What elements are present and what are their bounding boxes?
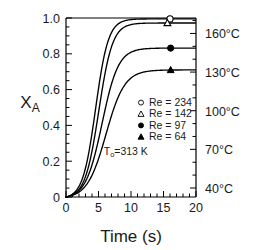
right-tick-label: 130°C [205,66,240,80]
legend-label-3: Re = 64 [149,130,186,142]
y-tick-label: 0.8 [43,47,60,61]
legend-marker-1 [138,111,144,116]
legend-label-1: Re = 142 [149,107,192,119]
figure: 00.20.40.60.81.040°C70°C100°C130°C160°C0… [0,0,273,250]
right-tick-label: 40°C [205,182,233,196]
x-tick-label: 10 [124,201,138,215]
legend-marker-0 [139,100,144,105]
y-tick-label: 0 [53,191,60,205]
y-tick-label: 1.0 [43,12,60,26]
legend-label-2: Re = 97 [149,119,186,131]
right-tick-label: 70°C [205,143,233,157]
x-tick-label: 5 [95,201,102,215]
legend-label-0: Re = 234 [149,96,192,108]
x-axis-label: Time (s) [100,227,162,246]
y-tick-label: 0.4 [43,119,60,133]
right-tick-label: 160°C [205,27,240,41]
legend-marker-3 [138,134,144,139]
x-tick-label: 20 [189,201,203,215]
y-tick-label: 0.6 [43,83,60,97]
chart-canvas: 00.20.40.60.81.040°C70°C100°C130°C160°C0… [0,0,273,250]
y-tick-label: 0.2 [43,155,60,169]
x-tick-label: 0 [63,201,70,215]
legend-marker-2 [139,123,144,128]
right-tick-label: 100°C [205,105,240,119]
annotation-inlet-temperature: To=313 K [104,145,148,160]
y-axis-label: XA [20,93,39,115]
x-tick-label: 15 [157,201,171,215]
series-marker-97 [168,45,174,51]
